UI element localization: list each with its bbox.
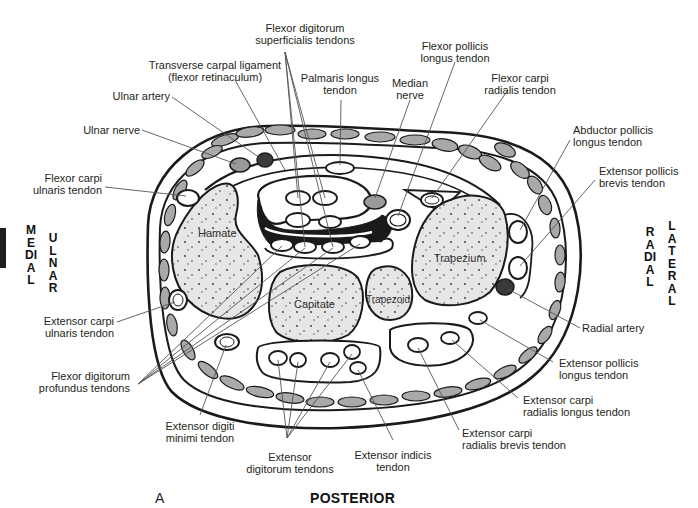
label-line: Flexor digitorum (30, 370, 130, 382)
label-line: Extensor pollicis (599, 165, 678, 177)
hamate-label: Hamate (198, 227, 237, 239)
label-line: longus tendon (415, 52, 495, 64)
label-line: Palmaris longus (300, 72, 380, 84)
label-line: Transverse carpal ligament (145, 59, 285, 71)
label-extensor-carpi-radialis-brevis: Extensor carpi radialis brevis tendon (462, 427, 566, 451)
orientation-ulnar: ULNAR (47, 232, 59, 295)
label-flexor-carpi-ulnaris: Flexor carpi ulnaris tendon (20, 172, 102, 196)
label-line: Ulnar nerve (60, 124, 140, 136)
label-line: Flexor carpi (475, 72, 565, 84)
label-extensor-digitorum: Extensor digitorum tendons (240, 451, 340, 475)
label-line: Extensor carpi (462, 427, 566, 439)
extensor-indicis-tendon (350, 362, 366, 374)
label-line: Extensor pollicis (559, 357, 638, 369)
label-line: Abductor pollicis (573, 124, 653, 136)
label-transverse-carpal-ligament: Transverse carpal ligament (flexor retin… (145, 59, 285, 83)
label-line: brevis tendon (599, 177, 678, 189)
trapezoid-label: Trapezoid (366, 294, 410, 305)
orientation-posterior: POSTERIOR (310, 490, 395, 506)
label-line: profundus tendons (30, 382, 130, 394)
label-ulnar-nerve: Ulnar nerve (60, 124, 140, 136)
label-line: tendon (300, 84, 380, 96)
label-line: Ulnar artery (90, 90, 170, 102)
label-line: Extensor (240, 451, 340, 463)
label-line: longus tendon (559, 369, 638, 381)
label-line: Flexor carpi (20, 172, 102, 184)
label-line: Median (385, 77, 435, 89)
label-line: (flexor retinaculum) (145, 71, 285, 83)
label-extensor-digiti-minimi: Extensor digiti minimi tendon (160, 420, 240, 444)
label-flexor-carpi-radialis: Flexor carpi radialis tendon (475, 72, 565, 96)
ulnar-artery (257, 153, 273, 167)
label-extensor-pollicis-brevis: Extensor pollicis brevis tendon (599, 165, 678, 189)
label-line: Extensor carpi (30, 315, 114, 327)
label-extensor-carpi-radialis-longus: Extensor carpi radialis longus tendon (523, 394, 630, 418)
label-radial-artery: Radial artery (582, 322, 644, 334)
label-line: radialis tendon (475, 84, 565, 96)
label-median-nerve: Median nerve (385, 77, 435, 101)
extensor-carpi-radialis-longus-tendon (441, 332, 459, 344)
orientation-lateral: LATERAL (666, 220, 678, 308)
label-line: Extensor digiti (160, 420, 240, 432)
abductor-pollicis-longus-tendon (509, 221, 527, 243)
label-line: ulnaris tendon (30, 327, 114, 339)
label-line: nerve (385, 89, 435, 101)
label-line: Extensor carpi (523, 394, 630, 406)
label-line: superficialis tendons (245, 34, 365, 46)
label-flexor-pollicis-longus: Flexor pollicis longus tendon (415, 40, 495, 64)
label-line: tendon (348, 461, 438, 473)
label-line: radialis brevis tendon (462, 439, 566, 451)
label-line: ulnaris tendon (20, 184, 102, 196)
label-extensor-carpi-ulnaris: Extensor carpi ulnaris tendon (30, 315, 114, 339)
label-palmaris-longus: Palmaris longus tendon (300, 72, 380, 96)
label-ulnar-artery: Ulnar artery (90, 90, 170, 102)
label-extensor-indicis: Extensor indicis tendon (348, 449, 438, 473)
label-line: Flexor digitorum (245, 22, 365, 34)
orientation-radial: RADIAL (644, 226, 656, 289)
radial-artery (496, 279, 514, 295)
flexor-carpi-ulnaris-tendon (177, 190, 199, 206)
ulnar-nerve (230, 158, 250, 172)
label-line: radialis longus tendon (523, 406, 630, 418)
wrist-cross-section-figure: Hamate Capitate Trapezoid Trapezium Flex… (0, 0, 698, 508)
label-line: minimi tendon (160, 432, 240, 444)
extensor-carpi-radialis-brevis-tendon (408, 338, 428, 352)
label-line: longus tendon (573, 136, 653, 148)
label-abductor-pollicis-longus: Abductor pollicis longus tendon (573, 124, 653, 148)
label-line: digitorum tendons (240, 463, 340, 475)
label-line: Radial artery (582, 322, 644, 334)
label-flexor-digitorum-superficialis: Flexor digitorum superficialis tendons (245, 22, 365, 46)
label-line: Flexor pollicis (415, 40, 495, 52)
extensor-pollicis-brevis-tendon (509, 257, 527, 279)
trapezium-label: Trapezium (434, 252, 486, 264)
label-flexor-digitorum-profundus: Flexor digitorum profundus tendons (30, 370, 130, 394)
panel-letter: A (155, 490, 164, 506)
orientation-medial: MEDIAL (25, 224, 37, 287)
capitate-label: Capitate (294, 298, 335, 310)
label-extensor-pollicis-longus: Extensor pollicis longus tendon (559, 357, 638, 381)
label-line: Extensor indicis (348, 449, 438, 461)
